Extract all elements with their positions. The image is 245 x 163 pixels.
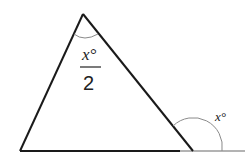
apex-label-numerator: x° [81,45,97,64]
diagram-svg: x° 2 x° [0,0,245,163]
apex-label-denominator: 2 [83,72,94,94]
triangle-right-side [83,14,193,151]
triangle-left-side [20,14,83,151]
apex-angle-arc [74,34,98,38]
exterior-angle-label: x° [214,109,226,124]
triangle-diagram: x° 2 x° [0,0,245,163]
